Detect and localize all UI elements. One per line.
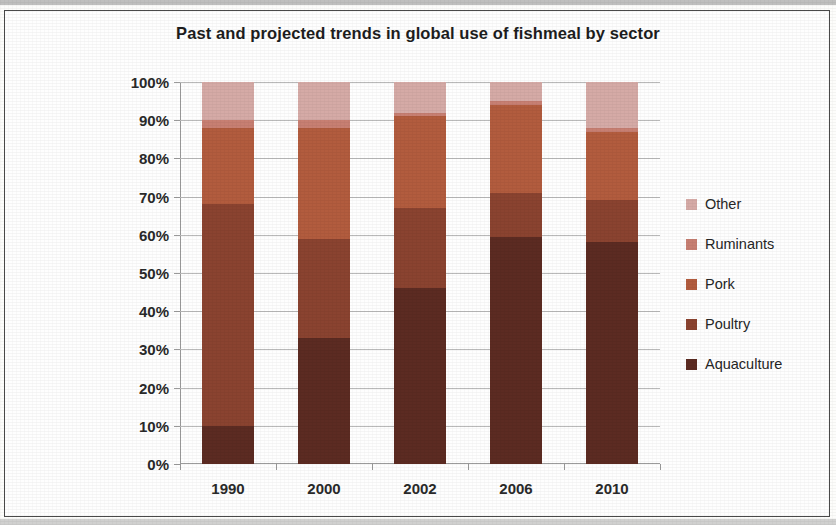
y-axis-label: 90% bbox=[139, 112, 169, 129]
legend-swatch-icon bbox=[686, 319, 697, 330]
bar-segment-aquaculture[interactable] bbox=[394, 288, 446, 464]
legend-label: Ruminants bbox=[705, 236, 774, 252]
y-axis-label: 20% bbox=[139, 379, 169, 396]
bar-segment-other[interactable] bbox=[202, 82, 254, 120]
scan-top-edge bbox=[0, 0, 836, 5]
bar-segment-aquaculture[interactable] bbox=[298, 338, 350, 464]
y-axis-label: 70% bbox=[139, 188, 169, 205]
scan-bottom-edge bbox=[0, 519, 836, 525]
bar-segment-pork[interactable] bbox=[202, 128, 254, 204]
y-axis-tick bbox=[174, 120, 180, 121]
x-axis-tick bbox=[180, 464, 181, 470]
legend-swatch-icon bbox=[686, 239, 697, 250]
x-axis-label: 2002 bbox=[403, 480, 436, 497]
y-axis-label: 60% bbox=[139, 226, 169, 243]
y-axis-label: 80% bbox=[139, 150, 169, 167]
chart-legend: OtherRuminantsPorkPoultryAquaculture bbox=[686, 196, 782, 372]
bar-segment-pork[interactable] bbox=[394, 116, 446, 208]
x-axis-tick bbox=[660, 464, 661, 470]
legend-item-pork[interactable]: Pork bbox=[686, 276, 782, 292]
bar-segment-other[interactable] bbox=[298, 82, 350, 120]
y-axis-tick bbox=[174, 158, 180, 159]
legend-swatch-icon bbox=[686, 279, 697, 290]
bar-segment-pork[interactable] bbox=[298, 128, 350, 239]
y-axis-label: 0% bbox=[147, 456, 169, 473]
legend-label: Poultry bbox=[705, 316, 750, 332]
x-axis-tick bbox=[468, 464, 469, 470]
bar-segment-other[interactable] bbox=[490, 82, 542, 101]
bar-stack[interactable] bbox=[202, 82, 254, 464]
bar-segment-pork[interactable] bbox=[490, 105, 542, 193]
y-axis-label: 40% bbox=[139, 303, 169, 320]
bar-segment-ruminants[interactable] bbox=[298, 120, 350, 128]
bar-segment-aquaculture[interactable] bbox=[586, 242, 638, 464]
x-axis-tick bbox=[276, 464, 277, 470]
plot-area: 0%10%20%30%40%50%60%70%80%90%100% 199020… bbox=[180, 82, 660, 464]
y-axis-label: 100% bbox=[131, 74, 169, 91]
legend-label: Pork bbox=[705, 276, 735, 292]
legend-item-other[interactable]: Other bbox=[686, 196, 782, 212]
x-axis-tick bbox=[564, 464, 565, 470]
y-axis-tick bbox=[174, 426, 180, 427]
bar-stack[interactable] bbox=[586, 82, 638, 464]
bar-segment-poultry[interactable] bbox=[586, 200, 638, 242]
bar-segment-ruminants[interactable] bbox=[490, 101, 542, 105]
bar-segment-ruminants[interactable] bbox=[394, 113, 446, 117]
bar-stack[interactable] bbox=[298, 82, 350, 464]
bar-segment-other[interactable] bbox=[586, 82, 638, 128]
bar-segment-aquaculture[interactable] bbox=[490, 237, 542, 464]
bar-segment-poultry[interactable] bbox=[202, 204, 254, 426]
bar-segment-aquaculture[interactable] bbox=[202, 426, 254, 464]
bar-segment-other[interactable] bbox=[394, 82, 446, 113]
legend-item-aquaculture[interactable]: Aquaculture bbox=[686, 356, 782, 372]
y-axis-tick bbox=[174, 388, 180, 389]
legend-swatch-icon bbox=[686, 199, 697, 210]
x-axis-tick bbox=[372, 464, 373, 470]
x-axis-label: 1990 bbox=[211, 480, 244, 497]
legend-item-ruminants[interactable]: Ruminants bbox=[686, 236, 782, 252]
bar-segment-ruminants[interactable] bbox=[202, 120, 254, 128]
chart-page: Past and projected trends in global use … bbox=[0, 0, 836, 525]
chart-title: Past and projected trends in global use … bbox=[0, 24, 836, 43]
legend-label: Other bbox=[705, 196, 741, 212]
x-axis-label: 2010 bbox=[595, 480, 628, 497]
bar-stack[interactable] bbox=[490, 82, 542, 464]
bar-stack[interactable] bbox=[394, 82, 446, 464]
y-axis-label: 30% bbox=[139, 341, 169, 358]
bar-segment-poultry[interactable] bbox=[490, 193, 542, 237]
y-axis-tick bbox=[174, 197, 180, 198]
x-axis-label: 2000 bbox=[307, 480, 340, 497]
y-axis-label: 50% bbox=[139, 265, 169, 282]
bar-segment-poultry[interactable] bbox=[298, 239, 350, 338]
y-axis-tick bbox=[174, 235, 180, 236]
bar-segment-poultry[interactable] bbox=[394, 208, 446, 288]
legend-swatch-icon bbox=[686, 359, 697, 370]
legend-item-poultry[interactable]: Poultry bbox=[686, 316, 782, 332]
y-axis-tick bbox=[174, 273, 180, 274]
x-axis-label: 2006 bbox=[499, 480, 532, 497]
y-axis-tick bbox=[174, 349, 180, 350]
y-axis-label: 10% bbox=[139, 417, 169, 434]
y-axis-tick bbox=[174, 311, 180, 312]
y-axis-tick bbox=[174, 82, 180, 83]
bar-segment-pork[interactable] bbox=[586, 132, 638, 201]
legend-label: Aquaculture bbox=[705, 356, 782, 372]
bar-segment-ruminants[interactable] bbox=[586, 128, 638, 132]
